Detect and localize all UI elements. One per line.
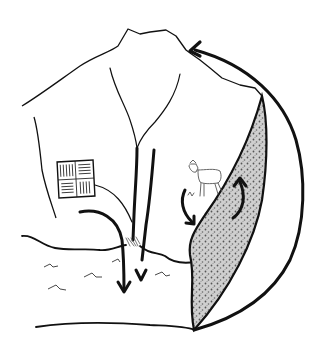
farm-field (57, 160, 95, 198)
goat (188, 160, 222, 196)
wetland-band (190, 96, 267, 330)
watershed-diagram (0, 0, 328, 352)
lake-waves (44, 259, 170, 290)
shoreline (22, 236, 195, 330)
